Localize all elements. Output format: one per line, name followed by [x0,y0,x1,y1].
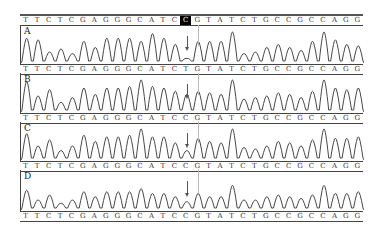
cursor-line [198,122,199,143]
base-call: G [77,212,88,221]
base-call: C [43,16,54,25]
base-call: T [226,16,237,25]
base-call: G [352,212,363,221]
base-call: C [135,212,146,221]
base-call: T [20,16,31,25]
mutation-arrow-icon [187,84,188,96]
mutation-arrow-icon [187,181,188,193]
sequence-row: TTCTCGAGGGCATCCGTATCTGCCGCCAGG [20,211,363,222]
base-call: T [249,212,260,221]
base-call: A [146,16,157,25]
base-call: T [203,16,214,25]
mutation-arrow-icon [187,36,188,48]
highlighted-base: C [180,16,191,25]
chromatogram-trace [21,170,364,211]
base-call: C [283,212,294,221]
base-call: C [66,212,77,221]
base-call: T [32,16,43,25]
base-call: A [329,212,340,221]
chromatogram-trace [21,122,364,161]
base-call: C [66,16,77,25]
base-call: A [329,16,340,25]
base-call: C [272,16,283,25]
chromatogram-trace [21,25,364,64]
trace-panel-a: A [20,25,364,64]
base-call: C [169,16,180,25]
base-call: A [89,212,100,221]
base-call: G [295,212,306,221]
base-call: G [352,16,363,25]
base-call: C [180,212,191,221]
mutation-arrow-icon [187,133,188,145]
base-call: A [215,16,226,25]
base-call: G [340,212,351,221]
base-call: C [237,212,248,221]
base-call: G [192,212,203,221]
base-call: C [135,16,146,25]
base-call: T [20,212,31,221]
base-call: G [192,16,203,25]
base-call: G [100,16,111,25]
base-call: C [272,212,283,221]
base-call: T [226,212,237,221]
base-call: A [89,16,100,25]
base-call: G [295,16,306,25]
base-call: C [317,212,328,221]
base-call: G [340,16,351,25]
trace-panel-c: C [20,122,364,161]
cursor-line [198,25,199,46]
base-call: G [123,212,134,221]
cursor-line [198,170,199,193]
base-call: G [260,212,271,221]
base-call: G [112,212,123,221]
base-call: T [55,16,66,25]
base-call: G [100,212,111,221]
base-call: G [77,16,88,25]
base-call: C [283,16,294,25]
trace-panel-b: B [20,73,364,113]
trace-panel-d: D [20,170,364,211]
base-call: C [317,16,328,25]
base-call: T [32,212,43,221]
base-call: C [306,212,317,221]
base-call: C [169,212,180,221]
base-call: T [55,212,66,221]
chromatogram-trace [21,73,364,113]
base-call: A [215,212,226,221]
base-call: G [260,16,271,25]
base-call: T [157,212,168,221]
cursor-line [198,73,199,95]
base-call: C [306,16,317,25]
base-call: C [43,212,54,221]
base-call: T [203,212,214,221]
base-call: G [123,16,134,25]
base-call: C [237,16,248,25]
base-call: A [146,212,157,221]
base-call: T [249,16,260,25]
base-call: T [157,16,168,25]
base-call: G [112,16,123,25]
